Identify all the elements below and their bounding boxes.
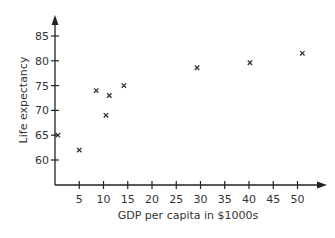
axes xyxy=(52,15,328,189)
x-tick-label: 50 xyxy=(291,193,305,206)
data-point-x-marker-icon xyxy=(104,113,108,117)
data-point-x-marker-icon xyxy=(107,93,111,97)
data-point-x-marker-icon xyxy=(300,51,304,55)
x-tick-label: 20 xyxy=(145,193,159,206)
y-axis-arrow-icon xyxy=(52,15,59,25)
y-axis-label: Life expectancy xyxy=(17,56,30,143)
data-point-x-marker-icon xyxy=(94,88,98,92)
y-tick-label: 80 xyxy=(35,55,49,68)
x-tick-label: 15 xyxy=(121,193,135,206)
scatter-chart: 5101520253035404550 606570758085 GDP per… xyxy=(0,0,335,238)
y-tick-label: 60 xyxy=(35,154,49,167)
x-tick-label: 45 xyxy=(266,193,280,206)
y-tick-label: 65 xyxy=(35,129,49,142)
y-tick-label: 85 xyxy=(35,30,49,43)
data-point-x-marker-icon xyxy=(195,66,199,70)
x-axis-label: GDP per capita in $1000s xyxy=(118,209,259,222)
x-axis-arrow-icon xyxy=(317,182,327,189)
y-tick-label: 75 xyxy=(35,80,49,93)
y-tick-label: 70 xyxy=(35,104,49,117)
x-tick-label: 40 xyxy=(242,193,256,206)
x-tick-label: 10 xyxy=(97,193,111,206)
x-tick-label: 25 xyxy=(169,193,183,206)
x-tick-label: 5 xyxy=(76,193,83,206)
data-point-x-marker-icon xyxy=(248,61,252,65)
data-point-x-marker-icon xyxy=(122,83,126,87)
data-point-x-marker-icon xyxy=(77,148,81,152)
data-points xyxy=(56,51,305,152)
x-tick-label: 30 xyxy=(194,193,208,206)
x-tick-label: 35 xyxy=(218,193,232,206)
